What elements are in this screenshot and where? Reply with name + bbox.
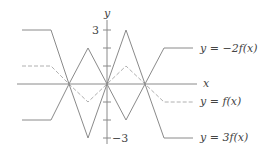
legend-neg2f: y = −2f(x) [199,42,258,55]
legend-3f: y = 3f(x) [199,131,248,144]
tick-label-neg3: −3 [112,132,128,145]
tick-label-3: 3 [92,24,99,37]
x-axis-label: x [203,77,210,90]
legend-f: y = f(x) [199,95,241,108]
chart-canvas: y x 3 −3 y = −2f(x) y = f(x) y = 3f(x) [0,0,266,152]
y-axis-label: y [103,7,111,20]
